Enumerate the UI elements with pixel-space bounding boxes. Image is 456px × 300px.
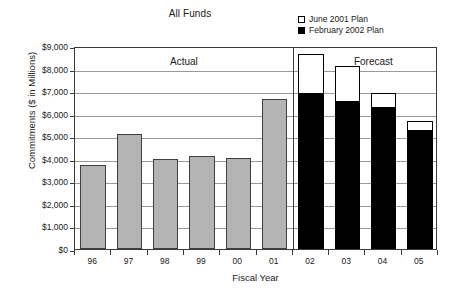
x-axis-tick-label-97: 97 xyxy=(113,256,143,266)
x-axis-tick-label-01: 01 xyxy=(259,256,289,266)
y-axis-tick xyxy=(70,206,74,207)
plot-area: ActualForecast xyxy=(74,47,437,250)
region-label-forecast: Forecast xyxy=(354,56,393,67)
y-axis-tick-label: $2,000 xyxy=(22,200,68,210)
x-axis-tick-label-98: 98 xyxy=(150,256,180,266)
x-axis-tick xyxy=(147,250,148,255)
bar-group-96 xyxy=(80,48,105,249)
x-axis-tick xyxy=(256,250,257,255)
y-axis-tick xyxy=(70,116,74,117)
bar-actual-99 xyxy=(189,156,214,249)
y-axis-tick-label: $3,000 xyxy=(22,177,68,187)
y-axis-tick-label: $8,000 xyxy=(22,65,68,75)
bar-february-2002-plan-03 xyxy=(335,101,360,249)
y-axis-tick-labels: $9,000$8,000$7,000$6,000$5,000$4,000$3,0… xyxy=(20,47,68,250)
x-axis-tick-label-03: 03 xyxy=(331,256,361,266)
y-axis-tick xyxy=(70,71,74,72)
bar-actual-97 xyxy=(117,134,142,249)
bar-actual-01 xyxy=(262,99,287,249)
bar-february-2002-plan-02 xyxy=(298,93,323,249)
bar-group-02 xyxy=(298,48,323,249)
y-axis-tick-label: $0 xyxy=(22,245,68,255)
x-axis-tick xyxy=(292,250,293,255)
bar-group-03 xyxy=(335,48,360,249)
bar-february-2002-plan-04 xyxy=(371,107,396,249)
bar-actual-96 xyxy=(80,165,105,249)
bar-group-97 xyxy=(117,48,142,249)
y-axis-tick xyxy=(70,138,74,139)
legend-label: February 2002 Plan xyxy=(309,25,384,36)
x-axis-tick xyxy=(364,250,365,255)
bar-group-01 xyxy=(262,48,287,249)
actual-forecast-divider xyxy=(293,47,294,250)
y-axis-tick xyxy=(70,228,74,229)
x-axis-tick-label-99: 99 xyxy=(186,256,216,266)
bar-actual-98 xyxy=(153,159,178,249)
x-axis-tick-label-04: 04 xyxy=(368,256,398,266)
y-axis-tick xyxy=(70,48,74,49)
x-axis-tick-label-05: 05 xyxy=(404,256,434,266)
x-axis-tick xyxy=(328,250,329,255)
y-axis-tick-label: $7,000 xyxy=(22,87,68,97)
x-axis-tick xyxy=(74,250,75,255)
chart-container: All Funds June 2001 Plan February 2002 P… xyxy=(0,0,456,300)
x-axis-tick-label-00: 00 xyxy=(222,256,252,266)
bar-group-05 xyxy=(407,48,432,249)
x-axis-tick xyxy=(110,250,111,255)
bar-group-04 xyxy=(371,48,396,249)
bar-group-99 xyxy=(189,48,214,249)
bar-february-2002-plan-05 xyxy=(407,130,432,249)
bar-actual-00 xyxy=(226,158,251,249)
y-axis-tick-label: $4,000 xyxy=(22,155,68,165)
x-axis-tick xyxy=(183,250,184,255)
bar-group-00 xyxy=(226,48,251,249)
filled-square-icon xyxy=(298,27,305,34)
x-axis-tick xyxy=(219,250,220,255)
x-axis-title: Fiscal Year xyxy=(74,272,437,283)
y-axis-tick xyxy=(70,183,74,184)
hollow-square-icon xyxy=(298,16,305,23)
chart-legend: June 2001 Plan February 2002 Plan xyxy=(298,14,384,36)
x-axis-tick-label-02: 02 xyxy=(295,256,325,266)
y-axis-tick-label: $1,000 xyxy=(22,222,68,232)
x-axis-tick-label-96: 96 xyxy=(77,256,107,266)
legend-item-february-2002-plan: February 2002 Plan xyxy=(298,25,384,36)
y-axis-tick xyxy=(70,93,74,94)
region-label-actual: Actual xyxy=(170,56,198,67)
x-axis-tick xyxy=(401,250,402,255)
y-axis-tick xyxy=(70,161,74,162)
y-axis-tick-label: $6,000 xyxy=(22,110,68,120)
legend-label: June 2001 Plan xyxy=(309,14,368,25)
y-axis-tick-label: $9,000 xyxy=(22,42,68,52)
y-axis-tick-label: $5,000 xyxy=(22,132,68,142)
bar-group-98 xyxy=(153,48,178,249)
x-axis-tick xyxy=(437,250,438,255)
legend-item-june-2001-plan: June 2001 Plan xyxy=(298,14,384,25)
